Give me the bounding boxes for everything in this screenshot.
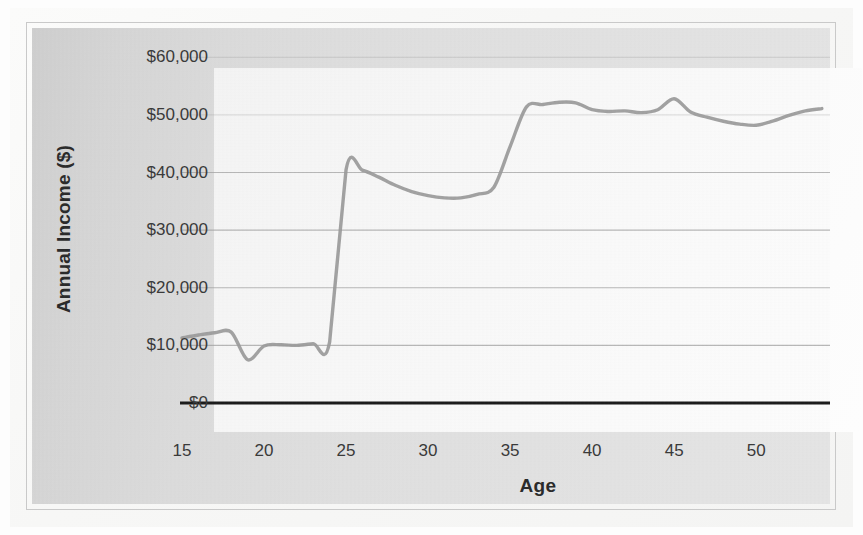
x-axis-tick-labels: 1520253035404550	[214, 441, 863, 467]
x-axis-tick-label: 40	[562, 441, 622, 461]
scanned-figure-page: $0$10,000$20,000$30,000$40,000$50,000$60…	[0, 0, 863, 535]
x-axis-tick-label: 20	[234, 441, 294, 461]
x-axis-tick-label: 50	[726, 441, 786, 461]
x-axis-tick-label: 30	[398, 441, 458, 461]
x-axis-tick-label: 35	[480, 441, 540, 461]
x-axis-title: Age	[214, 475, 862, 497]
y-axis-tick-label: $50,000	[58, 105, 208, 125]
y-axis-title: Annual Income ($)	[53, 79, 75, 379]
data-line	[182, 99, 822, 360]
x-axis-tick-label: 25	[316, 441, 376, 461]
x-axis-tick-label: 45	[644, 441, 704, 461]
gridlines	[182, 57, 830, 345]
y-axis-tick-label: $30,000	[58, 220, 208, 240]
y-axis-tick-labels: $0$10,000$20,000$30,000$40,000$50,000$60…	[56, 56, 208, 476]
y-axis-tick-label: $40,000	[58, 163, 208, 183]
y-axis-tick-label: $10,000	[58, 335, 208, 355]
y-axis-tick-label: $60,000	[58, 47, 208, 67]
y-axis-tick-label: $0	[58, 393, 208, 413]
chart-canvas: $0$10,000$20,000$30,000$40,000$50,000$60…	[32, 28, 830, 504]
data-line-series	[182, 99, 822, 360]
x-axis-tick-label: 15	[152, 441, 212, 461]
y-axis-tick-label: $20,000	[58, 278, 208, 298]
